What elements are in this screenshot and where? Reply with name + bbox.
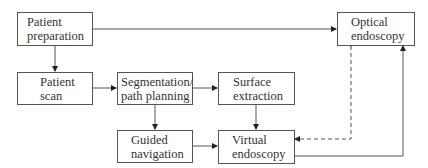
node-patient-scan: Patient scan: [17, 72, 93, 105]
node-label-line2: scan: [40, 89, 92, 103]
edge-optical-to-virtual-dashed: [295, 46, 351, 139]
node-label-line1: Guided: [131, 133, 192, 147]
node-label-line1: Patient: [27, 15, 92, 29]
node-patient-preparation: Patient preparation: [17, 12, 93, 46]
node-surface-extraction: Surface extraction: [218, 72, 295, 105]
node-virtual-endoscopy: Virtual endoscopy: [218, 130, 295, 164]
node-label-line2: navigation: [131, 147, 192, 161]
node-label-line1: Optical: [351, 15, 414, 29]
node-label-line2: endoscopy: [351, 29, 414, 43]
node-label-line1: Surface: [233, 75, 294, 89]
node-label-line2: endoscopy: [232, 147, 294, 161]
node-guided-navigation: Guided navigation: [117, 130, 193, 163]
node-segmentation-path-planning: Segmentation/ path planning: [117, 72, 193, 105]
node-label-line1: Virtual: [232, 133, 294, 147]
node-label-line2: path planning: [121, 89, 192, 103]
node-label-line2: preparation: [27, 29, 92, 43]
node-label-line1: Patient: [40, 75, 92, 89]
node-label-line1: Segmentation/: [121, 75, 192, 89]
node-label-line2: extraction: [233, 89, 294, 103]
node-optical-endoscopy: Optical endoscopy: [337, 12, 415, 46]
